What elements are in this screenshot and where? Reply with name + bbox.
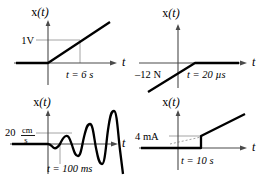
x-axis-arrowhead [110,61,117,66]
y-axis-label-t: (t) [39,96,50,109]
value-label: 4 mA [135,131,159,142]
y-axis-label-t: (t) [168,96,179,109]
x-axis-arrowhead [240,146,247,151]
y-axis-label: x(t) [162,6,179,20]
value-unit-denominator: s [24,135,27,145]
y-axis-arrowhead [46,110,51,116]
time-label: t = 100 ms [47,163,92,174]
x-axis-label: t [252,55,256,69]
y-axis-arrowhead [46,20,51,26]
time-label: t = 10 s [181,155,213,166]
y-axis-arrowhead [176,110,181,116]
panel-bottom-left: x(t) t 20 cm s t = 100 ms [0,96,133,192]
signal-waveform-figure: x(t) t 1V t = 6 s x(t) t –12 N t = 20 µs [0,0,266,192]
guide-line-dashed [170,137,201,144]
y-axis-label: x(t) [162,96,179,109]
value-label: 1V [21,35,34,46]
y-axis-label-t: (t) [37,5,48,19]
x-axis-label: t [252,140,256,154]
y-axis-label: x(t) [31,5,48,19]
x-axis-label: t [122,136,126,150]
panel-top-left: x(t) t 1V t = 6 s [0,0,133,96]
time-label: t = 6 s [66,69,93,80]
value-number: 20 [5,127,16,138]
x-axis-label: t [122,55,126,69]
panel-bottom-right: x(t) t 4 mA t = 10 s [133,96,266,192]
x-axis-arrowhead [240,61,247,66]
y-axis-arrowhead [176,24,181,30]
y-axis-label-t: (t) [168,6,179,20]
value-unit-numerator: cm [22,125,33,135]
y-axis-label: x(t) [33,96,50,109]
time-label: t = 20 µs [187,69,226,80]
value-label: –12 N [134,69,161,80]
panel-top-right: x(t) t –12 N t = 20 µs [133,0,266,96]
x-axis-arrowhead [111,142,118,147]
